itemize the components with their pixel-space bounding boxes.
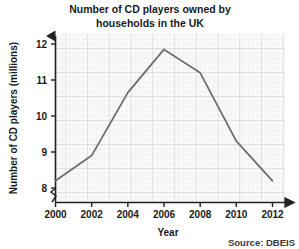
plot-grid	[56, 34, 285, 202]
y-tick-label-11: 11	[36, 75, 47, 86]
x-axis-title: Year	[157, 227, 178, 238]
x-tick-label-2012: 2012	[261, 209, 284, 220]
y-axis-title: Number of CD players (millions)	[8, 42, 19, 194]
y-tick-label-12: 12	[36, 39, 48, 50]
x-tick-label-2002: 2002	[81, 209, 104, 220]
y-tick-label-9: 9	[41, 147, 47, 158]
x-tick-label-2008: 2008	[189, 209, 212, 220]
chart-title-line-2: households in the UK	[96, 17, 204, 29]
x-tick-label-2000: 2000	[44, 209, 67, 220]
line-chart: Number of CD players owned by households…	[0, 0, 299, 249]
source-note: Source: DBEIS	[228, 237, 295, 248]
y-tick-label-8: 8	[41, 183, 47, 194]
y-tick-label-10: 10	[36, 111, 48, 122]
x-tick-label-2006: 2006	[153, 209, 176, 220]
x-tick-label-2010: 2010	[225, 209, 248, 220]
chart-title-line-1: Number of CD players owned by	[69, 3, 231, 15]
x-tick-label-2004: 2004	[117, 209, 140, 220]
chart-figure: Number of CD players owned by households…	[0, 0, 299, 249]
